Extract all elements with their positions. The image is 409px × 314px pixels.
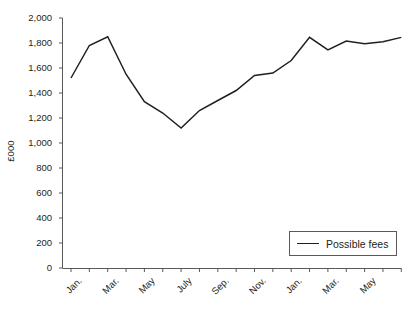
legend-label: Possible fees (326, 238, 388, 250)
x-tick-label: Jan. (34, 275, 84, 314)
chart-legend: Possible fees (289, 231, 397, 256)
line-chart-figure: £000 2,0001,8001,6001,4001,2001,00080060… (0, 0, 409, 314)
x-axis-tick-labels: Jan.Mar.MayJulySep.Nov.Jan.Mar.May (0, 0, 409, 314)
legend-line-swatch (297, 243, 319, 244)
